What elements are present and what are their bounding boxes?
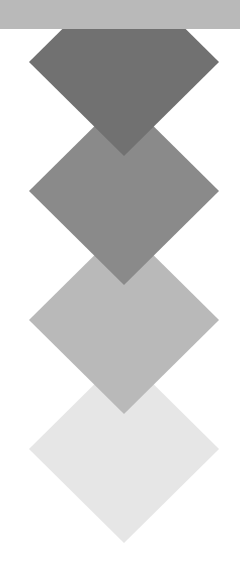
top-bar bbox=[0, 0, 240, 29]
canvas bbox=[0, 0, 240, 584]
diamond-stack bbox=[0, 0, 240, 584]
